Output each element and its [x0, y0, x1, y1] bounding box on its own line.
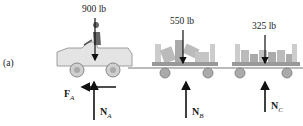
load-label-550: 550 lb [170, 16, 194, 26]
force-label-nb: NB [192, 106, 204, 120]
diagram-graphics [0, 0, 303, 126]
force-label-nc: NC [271, 100, 283, 114]
cart-c [232, 44, 300, 78]
force-label-fa: FA [64, 88, 74, 102]
free-body-diagram: (a) 900 lb 550 lb 325 lb FA NA NB NC [0, 0, 303, 126]
cart-b [152, 40, 218, 78]
force-label-na: NA [100, 106, 112, 120]
load-label-900: 900 lb [82, 4, 106, 14]
part-label: (a) [3, 58, 14, 68]
load-label-325: 325 lb [252, 21, 276, 31]
